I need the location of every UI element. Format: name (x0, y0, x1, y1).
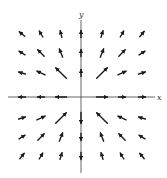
vector-arrow-icon (140, 31, 144, 36)
vector-arrows (19, 31, 146, 160)
x-axis-label: x (157, 93, 162, 102)
vector-arrow-icon (97, 68, 108, 79)
vector-arrow-icon (60, 31, 62, 38)
vector-arrow-icon (118, 71, 126, 75)
vector-arrow-icon (140, 153, 144, 158)
vector-arrow-icon (56, 68, 67, 79)
vector-arrow-icon (119, 50, 125, 56)
vector-arrow-icon (139, 135, 145, 139)
vector-arrow-icon (38, 134, 44, 140)
vector-arrow-icon (120, 31, 124, 37)
vector-arrow-icon (100, 49, 103, 57)
vector-arrow-icon (139, 117, 146, 119)
vector-arrow-icon (56, 113, 67, 124)
vector-arrow-icon (139, 72, 146, 74)
vector-arrow-icon (19, 32, 24, 36)
vector-arrow-icon (59, 133, 62, 141)
vector-arrow-icon (118, 116, 126, 120)
vector-arrow-icon (38, 50, 44, 56)
vector-arrow-icon (37, 116, 45, 120)
vector-field-diagram: x y (0, 0, 167, 178)
vector-arrow-icon (19, 135, 25, 139)
vector-arrow-icon (97, 113, 108, 124)
vector-arrow-icon (39, 153, 43, 159)
axes: x y (8, 10, 162, 173)
vector-arrow-icon (100, 133, 103, 141)
y-axis-label: y (78, 10, 84, 19)
vector-arrow-icon (120, 153, 124, 159)
vector-arrow-icon (139, 51, 145, 55)
vector-arrow-icon (101, 153, 103, 160)
vector-arrow-icon (101, 31, 103, 38)
vector-arrow-icon (19, 117, 26, 119)
vector-arrow-icon (39, 31, 43, 37)
vector-arrow-icon (19, 72, 26, 74)
vector-arrow-icon (37, 71, 45, 75)
vector-arrow-icon (20, 153, 24, 158)
vector-arrow-icon (59, 49, 62, 57)
vector-arrow-icon (19, 51, 25, 55)
vector-arrow-icon (119, 134, 125, 140)
vector-arrow-icon (60, 153, 62, 160)
